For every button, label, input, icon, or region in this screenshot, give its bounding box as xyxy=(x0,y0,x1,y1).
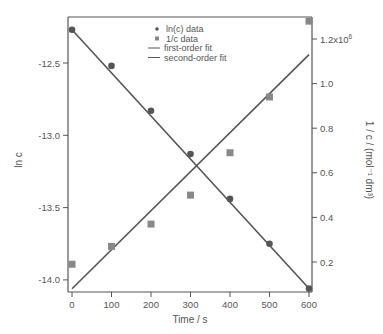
ln-c-data-point xyxy=(69,26,76,33)
left-tick-label: -12.5 xyxy=(38,58,60,69)
legend-label: ln(c) data xyxy=(166,24,204,34)
x-axis-label: Time / s xyxy=(172,314,207,325)
ln-c-data-point xyxy=(306,285,313,292)
right-y-axis-label: 1 / c / (mol⁻¹ dm³) xyxy=(364,121,375,199)
ln-c-data-point xyxy=(266,240,273,247)
left-tick-label: -14.0 xyxy=(38,274,60,285)
right-tick-label: 0.4 xyxy=(320,212,333,223)
inv-c-data-point xyxy=(266,93,273,100)
ln-c-data-point xyxy=(227,196,234,203)
x-tick-label: 400 xyxy=(222,299,238,310)
inv-c-data-point xyxy=(306,18,313,25)
x-tick-label: 500 xyxy=(262,299,278,310)
inv-c-data-point xyxy=(227,149,234,156)
right-tick-label: 0.2 xyxy=(320,257,333,268)
ln-c-data-point xyxy=(187,151,194,158)
inv-c-data-point xyxy=(187,192,194,199)
left-tick-label: -13.5 xyxy=(38,202,60,213)
right-tick-label: 1.2x106 xyxy=(320,33,353,45)
right-tick-label: 0.8 xyxy=(320,123,333,134)
ln-c-data-point xyxy=(148,107,155,114)
right-tick-label: 0.6 xyxy=(320,167,333,178)
x-tick-label: 0 xyxy=(69,299,74,310)
left-tick-label: -13.0 xyxy=(38,130,60,141)
inv-c-data-point xyxy=(108,243,115,250)
x-tick-label: 200 xyxy=(143,299,159,310)
left-y-axis-label: ln c xyxy=(13,152,24,168)
legend-label: first-order fit xyxy=(164,43,213,53)
legend-label: 1/c data xyxy=(166,34,198,44)
ln-c-data-point xyxy=(108,63,115,70)
x-tick-label: 300 xyxy=(183,299,199,310)
legend-square-icon xyxy=(155,37,159,41)
legend-circle-icon xyxy=(155,27,159,31)
x-tick-label: 100 xyxy=(104,299,120,310)
x-tick-label: 600 xyxy=(301,299,317,310)
right-tick-label: 1.0 xyxy=(320,78,333,89)
inv-c-data-point xyxy=(69,261,76,268)
inv-c-data-point xyxy=(148,221,155,228)
legend-label: second-order fit xyxy=(164,53,227,63)
chart: 0100200300400500600 -12.5-13.0-13.5-14.0… xyxy=(0,0,383,334)
